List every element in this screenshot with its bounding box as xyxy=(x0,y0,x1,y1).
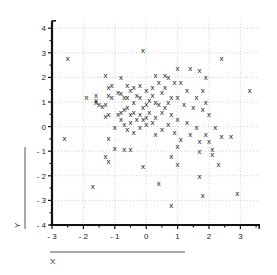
x-marker: x xyxy=(176,93,180,102)
x-marker: x xyxy=(144,120,148,129)
x-marker: x xyxy=(94,96,98,105)
x-marker: x xyxy=(110,93,114,102)
scatter-chart: 43210- 1- 2- 3- 4 - 3- 2- 10123 xxxxxxxx… xyxy=(0,0,277,275)
x-axis-title: X xyxy=(50,257,56,266)
x-marker: x xyxy=(163,83,167,92)
x-marker: x xyxy=(248,86,252,95)
x-tick-label: - 1 xyxy=(110,232,120,241)
x-marker: x xyxy=(185,118,189,127)
y-tick-label: - 4 xyxy=(37,221,47,230)
x-marker: x xyxy=(198,172,202,181)
x-marker: x xyxy=(113,123,117,132)
x-marker: x xyxy=(66,54,70,63)
y-tick-label: 4 xyxy=(42,24,47,33)
y-tick-label: 3 xyxy=(42,49,47,58)
x-marker: x xyxy=(191,103,195,112)
x-tick-label: 0 xyxy=(144,232,149,241)
x-marker: x xyxy=(169,110,173,119)
x-tick-label: 1 xyxy=(175,232,180,241)
x-marker: x xyxy=(188,64,192,73)
x-marker: x xyxy=(201,191,205,200)
x-marker: x xyxy=(194,123,198,132)
x-marker: x xyxy=(198,137,202,146)
x-marker: x xyxy=(229,132,233,141)
x-marker: x xyxy=(125,81,129,90)
data-points: xxxxxxxxxxxxxxxxxxxxxxxxxxxxxxxxxxxxxxxx… xyxy=(63,46,252,210)
x-marker: x xyxy=(213,123,217,132)
x-tick-label: 3 xyxy=(238,232,243,241)
x-marker: x xyxy=(160,125,164,134)
x-marker: x xyxy=(154,113,158,122)
x-tick-label: - 2 xyxy=(79,232,89,241)
x-marker: x xyxy=(129,145,133,154)
x-marker: x xyxy=(154,130,158,139)
x-tick-label: 2 xyxy=(207,232,212,241)
x-marker: x xyxy=(144,86,148,95)
x-marker: x xyxy=(141,46,145,55)
x-marker: x xyxy=(132,128,136,137)
x-marker: x xyxy=(194,93,198,102)
x-marker: x xyxy=(138,93,142,102)
x-marker: x xyxy=(172,128,176,137)
x-marker: x xyxy=(103,100,107,109)
x-marker: x xyxy=(201,105,205,114)
x-axis: - 3- 2- 10123 xyxy=(47,224,259,241)
y-tick-label: - 1 xyxy=(37,147,47,156)
x-marker: x xyxy=(85,93,89,102)
x-marker: x xyxy=(91,182,95,191)
x-marker: x xyxy=(166,120,170,129)
x-marker: x xyxy=(176,160,180,169)
x-marker: x xyxy=(107,157,111,166)
y-tick-label: - 3 xyxy=(37,196,47,205)
y-tick-label: 1 xyxy=(42,98,47,107)
x-marker: x xyxy=(176,142,180,151)
x-marker: x xyxy=(122,145,126,154)
grid xyxy=(52,21,259,225)
x-marker: x xyxy=(201,86,205,95)
x-marker: x xyxy=(141,162,145,171)
x-marker: x xyxy=(169,152,173,161)
x-marker: x xyxy=(179,78,183,87)
x-marker: x xyxy=(113,144,117,153)
x-marker: x xyxy=(198,147,202,156)
x-marker: x xyxy=(169,93,173,102)
x-marker: x xyxy=(154,71,158,80)
x-marker: x xyxy=(119,115,123,124)
x-marker: x xyxy=(220,54,224,63)
x-marker: x xyxy=(176,64,180,73)
x-marker: x xyxy=(63,134,67,143)
x-marker: x xyxy=(132,98,136,107)
x-marker: x xyxy=(110,81,114,90)
x-marker: x xyxy=(150,83,154,92)
y-tick-label: 0 xyxy=(42,123,47,132)
x-marker: x xyxy=(188,130,192,139)
x-marker: x xyxy=(220,132,224,141)
x-marker: x xyxy=(119,73,123,82)
x-marker: x xyxy=(169,201,173,210)
x-marker: x xyxy=(138,123,142,132)
x-marker: x xyxy=(204,73,208,82)
y-axis-title: Y xyxy=(13,222,22,228)
x-marker: x xyxy=(107,134,111,143)
x-marker: x xyxy=(235,189,239,198)
x-marker: x xyxy=(207,110,211,119)
x-tick-label: - 3 xyxy=(47,232,57,241)
x-marker: x xyxy=(176,115,180,124)
x-marker: x xyxy=(138,81,142,90)
x-marker: x xyxy=(166,73,170,82)
x-marker: x xyxy=(103,71,107,80)
x-marker: x xyxy=(207,137,211,146)
x-marker: x xyxy=(103,112,107,121)
x-marker: x xyxy=(185,86,189,95)
x-marker: x xyxy=(125,125,129,134)
x-marker: x xyxy=(157,179,161,188)
y-tick-label: - 2 xyxy=(37,172,47,181)
y-axis: 43210- 1- 2- 3- 4 xyxy=(37,21,56,230)
y-tick-label: 2 xyxy=(42,73,47,82)
x-marker: x xyxy=(216,160,220,169)
x-marker: x xyxy=(182,100,186,109)
x-marker: x xyxy=(198,66,202,75)
x-marker: x xyxy=(172,78,176,87)
